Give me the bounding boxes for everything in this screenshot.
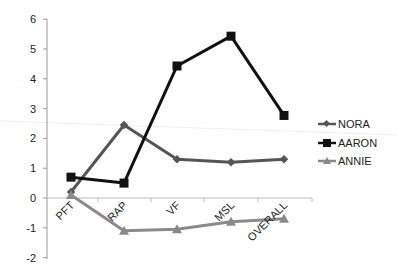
- y-axis-ticks: -2-10123456: [26, 13, 47, 263]
- legend: NORA AARON ANNIE: [318, 118, 377, 167]
- y-tick-label: 6: [30, 13, 36, 25]
- category-label: MSL: [212, 199, 236, 223]
- category-label: RAP: [105, 199, 129, 223]
- legend-label: AARON: [338, 137, 377, 149]
- square-marker-icon: [227, 32, 236, 41]
- y-tick-label: -2: [26, 252, 36, 264]
- square-marker-icon: [173, 61, 182, 70]
- y-tick-label: 0: [30, 192, 36, 204]
- square-marker-icon: [120, 179, 129, 188]
- square-marker-icon: [67, 173, 76, 182]
- line-chart: -2-10123456 PFTRAPVFMSLOVERALL NORA AARO…: [0, 0, 398, 280]
- legend-label: NORA: [338, 118, 370, 130]
- series-nora: [67, 121, 288, 197]
- y-tick-label: 1: [30, 162, 36, 174]
- square-marker-icon: [280, 111, 289, 120]
- y-tick-label: 3: [30, 103, 36, 115]
- y-tick-label: 4: [30, 73, 36, 85]
- legend-label: ANNIE: [338, 155, 372, 167]
- diamond-marker-icon: [280, 155, 288, 163]
- y-tick-label: -1: [26, 222, 36, 234]
- diamond-marker-icon: [323, 120, 330, 127]
- legend-item-aaron: AARON: [318, 137, 377, 149]
- y-tick-label: 5: [30, 43, 36, 55]
- diamond-marker-icon: [227, 158, 235, 166]
- category-label: PFT: [53, 199, 76, 222]
- square-marker-icon: [323, 139, 331, 147]
- y-tick-label: 2: [30, 132, 36, 144]
- legend-item-nora: NORA: [318, 118, 370, 130]
- series-aaron: [67, 32, 289, 188]
- legend-item-annie: ANNIE: [318, 155, 372, 167]
- category-label: VF: [164, 199, 183, 218]
